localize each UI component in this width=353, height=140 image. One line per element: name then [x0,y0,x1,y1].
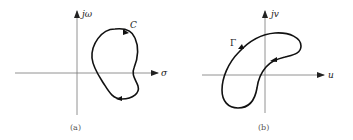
axis-label-jv: jv [269,9,279,19]
direction-arrow-icon [270,57,277,62]
caption-a: (a) [70,123,81,132]
caption-b: (b) [258,123,269,132]
contour-label-gamma: Γ [230,38,236,48]
axis-label-jomega: jω [80,9,93,19]
contour-mapping-diagram: jω σ C (a) jv u Γ (b) [0,0,353,140]
contour-c [92,29,138,99]
axis-label-sigma: σ [161,68,168,78]
axis-label-u: u [328,70,334,80]
panel-b: jv u Γ (b) [202,9,334,132]
contour-label-c: C [130,20,137,30]
panel-a: jω σ C (a) [15,9,168,132]
direction-arrow-icon [238,44,244,49]
